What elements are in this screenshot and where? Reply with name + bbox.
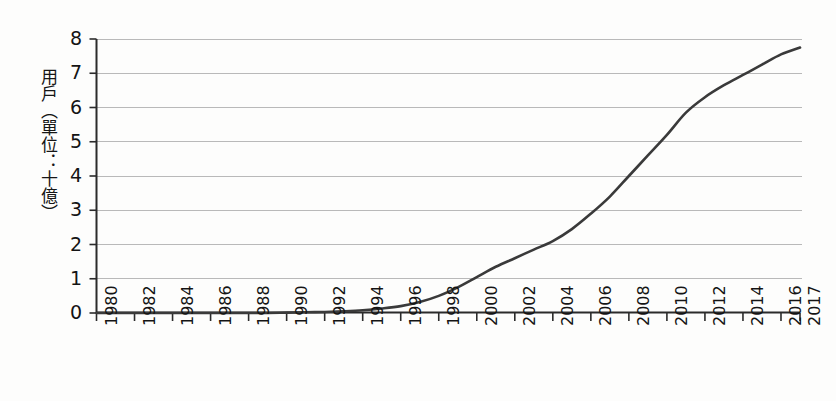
data-series-line [97, 48, 801, 313]
gridlines [97, 39, 803, 279]
plot-area [0, 0, 836, 401]
chart-figure: 用戶（單位：十億） 012345678 19801982198419861988… [0, 0, 836, 401]
y-axis-ticks [90, 39, 97, 313]
